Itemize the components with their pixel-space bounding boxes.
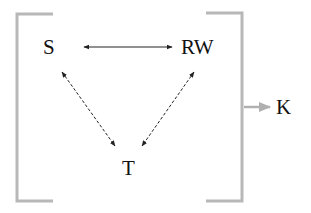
rw-t-arrow (142, 72, 194, 146)
node-s: S (43, 37, 55, 58)
node-k: K (276, 97, 291, 118)
diagram-canvas (0, 0, 311, 213)
node-rw: RW (181, 37, 214, 58)
s-t-arrow (62, 72, 115, 146)
node-t: T (122, 158, 135, 179)
